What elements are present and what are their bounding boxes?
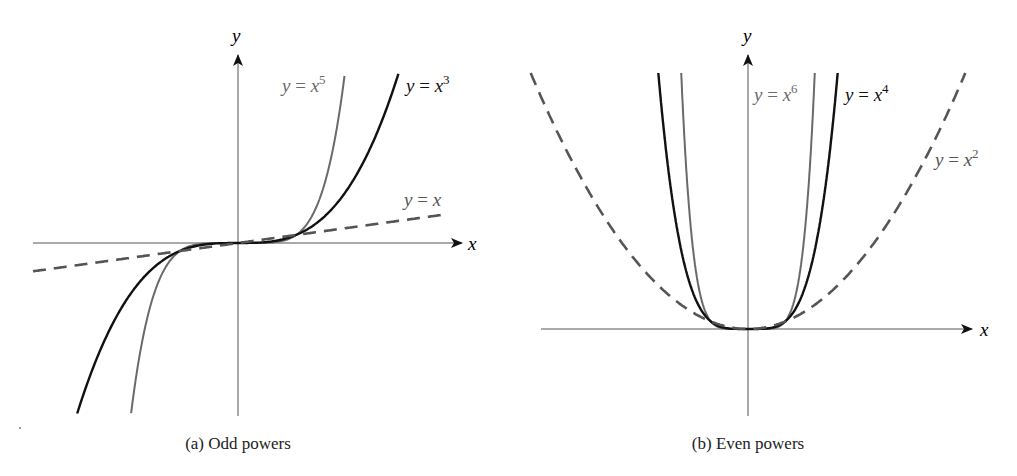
label-y-x4: y = x4	[843, 81, 889, 105]
figure-canvas: x y y = x5 y = x3 y = x (a) Odd powers x…	[0, 0, 1017, 476]
label-y-x2: y = x2	[933, 146, 979, 170]
caption-odd-powers: (a) Odd powers	[185, 434, 291, 453]
panel-even-powers: x y y = x6 y = x4 y = x2 (b) Even powers	[531, 25, 989, 453]
caption-even-powers: (b) Even powers	[692, 434, 804, 453]
panel-odd-powers: x y y = x5 y = x3 y = x (a) Odd powers	[33, 25, 477, 453]
y-axis-label: y	[230, 25, 241, 46]
y-axis-label: y	[741, 25, 752, 46]
label-y-x5: y = x5	[280, 72, 326, 96]
label-y-x3: y = x3	[404, 72, 450, 96]
label-y-x6: y = x6	[752, 81, 798, 105]
stray-dot	[19, 427, 21, 429]
x-axis-label: x	[979, 319, 989, 340]
label-y-x: y = x	[402, 189, 442, 210]
x-axis-label: x	[467, 233, 477, 254]
